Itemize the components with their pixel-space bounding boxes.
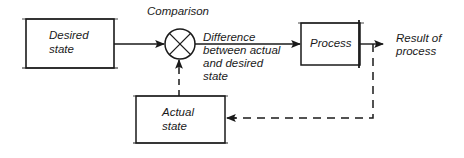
- result-label-line2: process: [396, 45, 436, 58]
- difference-label-line3: and desired: [203, 57, 263, 70]
- process-label: Process: [310, 37, 352, 50]
- result-label-line1: Result of: [396, 32, 441, 45]
- difference-label-line4: state: [203, 70, 228, 83]
- feedback-loop-diagram: [0, 0, 464, 158]
- desired-state-label-line1: Desired: [49, 29, 89, 42]
- actual-state-label-line2: state: [162, 120, 187, 133]
- comparator-icon: [165, 29, 195, 59]
- actual-state-label-line1: Actual: [162, 106, 194, 119]
- difference-label-line2: between actual: [203, 44, 280, 57]
- comparison-label: Comparison: [147, 5, 209, 18]
- difference-label-line1: Difference: [203, 31, 255, 44]
- desired-state-label-line2: state: [49, 43, 74, 56]
